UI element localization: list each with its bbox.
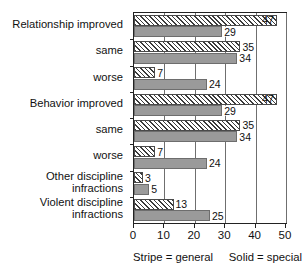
bar-value-label: 24: [208, 158, 222, 169]
y-axis-tick: [130, 197, 134, 198]
bar-value-label: 7: [156, 146, 164, 157]
bar-special: 5: [134, 184, 149, 195]
bar-special: 24: [134, 79, 207, 90]
y-axis-tick: [130, 118, 134, 119]
legend-entry-solid: Solid = special: [229, 251, 302, 263]
bar-chart: Relationship improvedsameworseBehavior i…: [0, 0, 302, 273]
x-axis-tick-label: 30: [218, 229, 231, 241]
bar-value-label: 25: [211, 210, 225, 221]
bar-value-label: 13: [175, 199, 189, 210]
category-label: Violent discipline infractions: [40, 197, 123, 221]
category-label: worse: [93, 150, 123, 162]
x-axis-tick-label: 40: [248, 229, 261, 241]
x-axis-tick: [255, 223, 256, 228]
y-axis-tick: [130, 66, 134, 67]
y-axis-tick: [130, 39, 134, 40]
bar-general: 47: [134, 94, 277, 105]
x-axis-tick: [224, 223, 225, 228]
bar-value-label: 35: [241, 120, 255, 131]
x-axis-tick-label: 0: [130, 229, 136, 241]
bar-general: 7: [134, 146, 155, 157]
bar-general: 35: [134, 41, 240, 52]
category-axis-labels: Relationship improvedsameworseBehavior i…: [0, 12, 128, 222]
category-label: Behavior improved: [30, 98, 123, 110]
category-label: Other discipline infractions: [46, 171, 123, 195]
gridline: [286, 13, 287, 223]
bar-value-label: 7: [156, 68, 164, 79]
bar-value-label: 34: [238, 132, 252, 143]
x-axis-tick: [163, 223, 164, 228]
bar-value-label: 5: [150, 184, 158, 195]
bar-value-label: 35: [241, 41, 255, 52]
bar-general: 13: [134, 199, 174, 210]
bar-special: 34: [134, 131, 237, 142]
bar-general: 47: [134, 15, 277, 26]
bar-general: 35: [134, 120, 240, 131]
x-axis-tick: [133, 223, 134, 228]
bar-value-label: 24: [208, 79, 222, 90]
y-axis-tick: [130, 144, 134, 145]
bar-value-label: 47: [261, 94, 275, 105]
bar-value-label: 34: [238, 53, 252, 64]
category-label: worse: [93, 72, 123, 84]
bar-special: 25: [134, 210, 210, 221]
bar-special: 29: [134, 26, 222, 37]
x-axis-tick-label: 20: [187, 229, 200, 241]
x-axis: 01020304050: [133, 223, 285, 249]
plot-area: 4729353472447293534724351325: [133, 12, 287, 224]
category-label: Relationship improved: [12, 19, 123, 31]
y-axis-tick: [130, 171, 134, 172]
chart-legend: Stripe = general Solid = special: [133, 248, 302, 266]
x-axis-tick: [285, 223, 286, 228]
category-label: same: [96, 45, 123, 57]
legend-entry-stripe: Stripe = general: [133, 251, 213, 263]
bar-value-label: 29: [223, 27, 237, 38]
y-axis-tick: [130, 92, 134, 93]
bar-value-label: 29: [223, 105, 237, 116]
bar-general: 3: [134, 172, 143, 183]
bar-value-label: 3: [144, 173, 152, 184]
bar-special: 29: [134, 105, 222, 116]
bar-general: 7: [134, 67, 155, 78]
bar-special: 24: [134, 158, 207, 169]
bar-value-label: 47: [261, 15, 275, 26]
x-axis-tick-label: 50: [279, 229, 292, 241]
gridline: [256, 13, 257, 223]
x-axis-tick-label: 10: [157, 229, 170, 241]
bar-special: 34: [134, 53, 237, 64]
category-label: same: [96, 124, 123, 136]
x-axis-tick: [194, 223, 195, 228]
